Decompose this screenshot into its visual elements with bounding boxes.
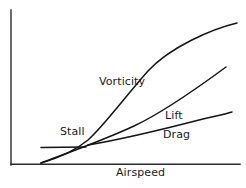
series-label-vorticity: Vorticity: [99, 75, 145, 88]
chart-canvas: [0, 0, 246, 188]
x-axis-label: Airspeed: [116, 166, 165, 179]
series-label-stall: Stall: [60, 125, 85, 138]
series-label-lift: Lift: [165, 109, 183, 122]
series-label-drag: Drag: [163, 128, 190, 141]
chart-figure: Vorticity Lift Drag Stall Airspeed: [0, 0, 246, 188]
series-line-stall: [41, 147, 86, 148]
series-line-vorticity: [41, 23, 237, 163]
